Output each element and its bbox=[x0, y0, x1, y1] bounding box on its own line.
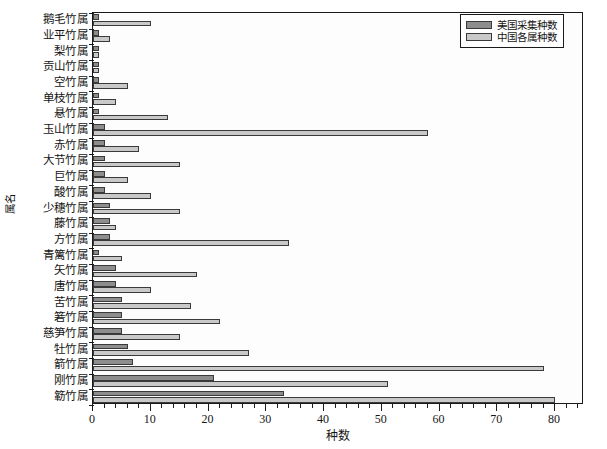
bar-us-collected bbox=[93, 234, 110, 240]
y-axis-label-9: 大节竹属 bbox=[0, 154, 88, 166]
x-axis-minor-tick bbox=[173, 404, 174, 408]
x-axis-minor-tick bbox=[335, 404, 336, 408]
bar-cn-species bbox=[93, 177, 128, 183]
y-axis-label-22: 箭竹属 bbox=[0, 358, 88, 370]
x-axis-minor-tick bbox=[138, 404, 139, 408]
x-axis-minor-tick bbox=[161, 404, 162, 408]
bar-cn-species bbox=[93, 272, 197, 278]
x-axis-minor-tick bbox=[392, 404, 393, 408]
y-axis-tick bbox=[89, 374, 94, 375]
x-axis-tick-label-1: 10 bbox=[130, 412, 170, 427]
x-axis-minor-tick bbox=[242, 404, 243, 408]
y-axis-label-24: 簕竹属 bbox=[0, 390, 88, 402]
x-axis-major-tick bbox=[92, 404, 93, 411]
bar-cn-species bbox=[93, 52, 99, 58]
y-axis-tick-labels: 鹅毛竹属业平竹属梨竹属贡山竹属空竹属单枝竹属悬竹属玉山竹属赤竹属大节竹属巨竹属酸… bbox=[0, 12, 88, 404]
x-axis-minor-tick bbox=[358, 404, 359, 408]
bar-cn-species bbox=[93, 397, 555, 403]
x-axis-minor-tick bbox=[115, 404, 116, 408]
bar-cn-species bbox=[93, 256, 122, 262]
bar-cn-species bbox=[93, 130, 428, 136]
bar-group bbox=[93, 92, 582, 106]
bar-group bbox=[93, 108, 582, 122]
bar-group bbox=[93, 171, 582, 185]
legend-entry-0: 美国采集种数 bbox=[466, 19, 557, 31]
x-axis-tick-label-6: 60 bbox=[419, 412, 459, 427]
bar-us-collected bbox=[93, 297, 122, 303]
legend-swatch-0 bbox=[466, 21, 492, 29]
y-axis-label-1: 业平竹属 bbox=[0, 29, 88, 41]
bar-us-collected bbox=[93, 187, 105, 193]
bar-cn-species bbox=[93, 303, 191, 309]
plot-area bbox=[92, 12, 583, 404]
x-axis-minor-tick bbox=[184, 404, 185, 408]
bar-us-collected bbox=[93, 156, 105, 162]
x-axis-minor-tick bbox=[519, 404, 520, 408]
y-axis-tick bbox=[89, 107, 94, 108]
bar-group bbox=[93, 124, 582, 138]
y-axis-label-18: 苦竹属 bbox=[0, 296, 88, 308]
bar-cn-species bbox=[93, 146, 139, 152]
x-axis-major-tick bbox=[208, 404, 209, 411]
x-axis-minor-tick bbox=[508, 404, 509, 408]
y-axis-label-20: 慈笋竹属 bbox=[0, 327, 88, 339]
bar-us-collected bbox=[93, 328, 122, 334]
bar-us-collected bbox=[93, 375, 214, 381]
legend: 美国采集种数中国各属种数 bbox=[460, 14, 564, 48]
bar-us-collected bbox=[93, 109, 99, 115]
x-axis-minor-tick bbox=[577, 404, 578, 408]
bar-group bbox=[93, 390, 582, 404]
bar-us-collected bbox=[93, 171, 105, 177]
bar-cn-species bbox=[93, 162, 180, 168]
bar-group bbox=[93, 328, 582, 342]
legend-label-0: 美国采集种数 bbox=[497, 20, 557, 31]
bar-cn-species bbox=[93, 68, 99, 74]
y-axis-tick bbox=[89, 358, 94, 359]
bar-group bbox=[93, 187, 582, 201]
y-axis-tick bbox=[89, 327, 94, 328]
bar-cn-species bbox=[93, 319, 220, 325]
x-axis-minor-tick bbox=[566, 404, 567, 408]
y-axis-label-11: 酸竹属 bbox=[0, 186, 88, 198]
y-axis-label-21: 牡竹属 bbox=[0, 343, 88, 355]
bar-cn-species bbox=[93, 193, 151, 199]
x-axis-minor-tick bbox=[473, 404, 474, 408]
y-axis-tick bbox=[89, 123, 94, 124]
y-axis-label-12: 少穗竹属 bbox=[0, 202, 88, 214]
bar-group bbox=[93, 265, 582, 279]
x-axis-minor-tick bbox=[427, 404, 428, 408]
x-axis-tick-label-5: 50 bbox=[361, 412, 401, 427]
y-axis-label-7: 玉山竹属 bbox=[0, 123, 88, 135]
y-axis-tick bbox=[89, 60, 94, 61]
x-axis-tick-label-4: 40 bbox=[303, 412, 343, 427]
bar-us-collected bbox=[93, 281, 116, 287]
legend-swatch-1 bbox=[466, 33, 492, 41]
y-axis-tick bbox=[89, 295, 94, 296]
y-axis-label-10: 巨竹属 bbox=[0, 170, 88, 182]
bar-us-collected bbox=[93, 14, 99, 20]
y-axis-tick bbox=[89, 311, 94, 312]
y-axis-tick bbox=[89, 44, 94, 45]
x-axis-minor-tick bbox=[462, 404, 463, 408]
y-axis-tick bbox=[89, 201, 94, 202]
legend-entry-1: 中国各属种数 bbox=[466, 31, 557, 43]
bar-cn-species bbox=[93, 83, 128, 89]
x-axis-title: 种数 bbox=[92, 426, 583, 444]
x-axis-minor-tick bbox=[219, 404, 220, 408]
bar-us-collected bbox=[93, 359, 133, 365]
x-axis-minor-tick bbox=[450, 404, 451, 408]
bar-group bbox=[93, 140, 582, 154]
bar-cn-species bbox=[93, 366, 544, 372]
y-axis-label-19: 箬竹属 bbox=[0, 311, 88, 323]
x-axis-major-tick bbox=[439, 404, 440, 411]
x-axis-major-tick bbox=[554, 404, 555, 411]
x-axis-minor-tick bbox=[254, 404, 255, 408]
y-axis-label-23: 刚竹属 bbox=[0, 374, 88, 386]
bar-us-collected bbox=[93, 140, 105, 146]
bar-us-collected bbox=[93, 62, 99, 68]
x-axis-tick-label-8: 80 bbox=[534, 412, 574, 427]
y-axis-label-6: 悬竹属 bbox=[0, 107, 88, 119]
y-axis-tick bbox=[89, 170, 94, 171]
x-axis-minor-tick bbox=[288, 404, 289, 408]
y-axis-tick bbox=[89, 76, 94, 77]
